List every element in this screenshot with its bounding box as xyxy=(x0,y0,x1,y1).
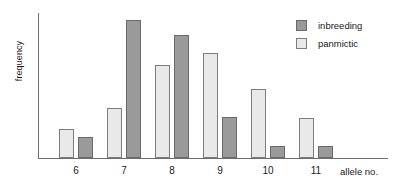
y-axis-title: frequency xyxy=(14,16,24,106)
x-tick-label: 6 xyxy=(59,165,93,176)
x-tick-label: 8 xyxy=(155,165,189,176)
bar-inbreeding xyxy=(222,117,237,158)
bar-panmictic xyxy=(203,53,218,158)
chart-figure: frequency allele no. inbreeding panmicti… xyxy=(0,0,400,190)
x-tick-label: 9 xyxy=(203,165,237,176)
legend-label-panmictic: panmictic xyxy=(318,38,358,49)
legend-item-panmictic: panmictic xyxy=(296,36,362,51)
bar-panmictic xyxy=(251,89,266,158)
legend-item-inbreeding: inbreeding xyxy=(296,18,362,33)
x-tick-label: 11 xyxy=(299,165,333,176)
bar-inbreeding xyxy=(318,146,333,158)
bar-inbreeding xyxy=(126,20,141,158)
bar-panmictic xyxy=(299,118,314,158)
x-tick-label: 7 xyxy=(107,165,141,176)
bar-inbreeding xyxy=(78,137,93,158)
chart-legend: inbreeding panmictic xyxy=(296,18,362,54)
bar-panmictic xyxy=(107,108,122,158)
x-axis-title: allele no. xyxy=(340,166,378,177)
legend-label-inbreeding: inbreeding xyxy=(318,20,362,31)
bar-inbreeding xyxy=(270,146,285,158)
square-swatch-dark-icon xyxy=(296,20,307,31)
x-axis-line xyxy=(38,158,388,159)
bar-inbreeding xyxy=(174,35,189,158)
x-tick-label: 10 xyxy=(251,165,285,176)
square-swatch-light-icon xyxy=(296,38,307,49)
bar-panmictic xyxy=(59,129,74,158)
bar-panmictic xyxy=(155,65,170,158)
